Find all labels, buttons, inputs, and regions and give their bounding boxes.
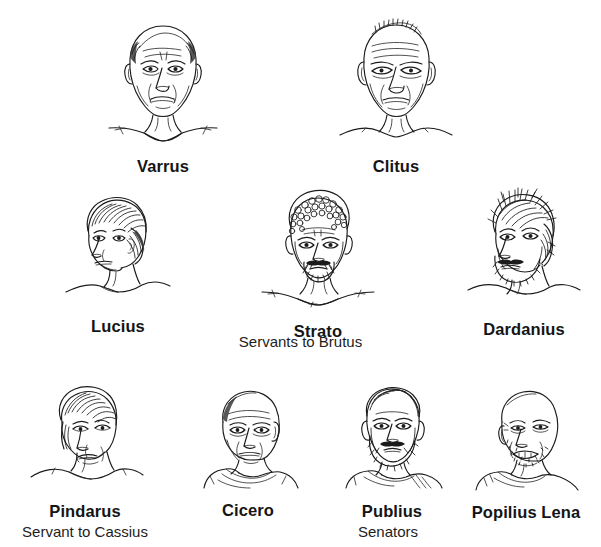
pindarus-portrait xyxy=(25,375,145,487)
character-name-lucius: Lucius xyxy=(91,318,145,335)
group-label-servant-to-cassius: Servant to Cassius xyxy=(5,524,165,540)
character-card-publius: Publius xyxy=(336,376,448,520)
character-card-lucius: Lucius xyxy=(58,184,178,335)
character-card-dardanius: Dardanius xyxy=(460,184,588,338)
character-card-varrus: Varrus xyxy=(103,14,223,175)
character-name-publius: Publius xyxy=(362,503,422,520)
character-card-cicero: Cicero xyxy=(192,378,304,519)
character-card-clitus: Clitus xyxy=(336,14,456,175)
character-chart: Varrus xyxy=(0,0,601,547)
character-card-strato: Strato xyxy=(258,182,378,340)
publius-portrait xyxy=(336,376,448,488)
character-name-dardanius: Dardanius xyxy=(483,321,565,338)
strato-portrait xyxy=(258,182,378,307)
dardanius-portrait xyxy=(460,184,588,306)
character-card-pindarus: Pindarus xyxy=(25,375,145,520)
cicero-portrait xyxy=(192,378,304,488)
popilius-lena-portrait xyxy=(466,378,586,490)
character-name-pindarus: Pindarus xyxy=(49,503,120,520)
varrus-portrait xyxy=(103,14,223,144)
character-name-clitus: Clitus xyxy=(373,158,419,175)
character-card-popilius-lena: Popilius Lena xyxy=(466,378,586,521)
lucius-portrait xyxy=(58,184,178,304)
character-name-popilius-lena: Popilius Lena xyxy=(472,504,581,521)
group-label-servants-to-brutus: Servants to Brutus xyxy=(218,334,383,350)
character-name-cicero: Cicero xyxy=(222,502,274,519)
character-name-varrus: Varrus xyxy=(137,158,189,175)
clitus-portrait xyxy=(336,14,456,144)
group-label-senators: Senators xyxy=(332,524,444,540)
